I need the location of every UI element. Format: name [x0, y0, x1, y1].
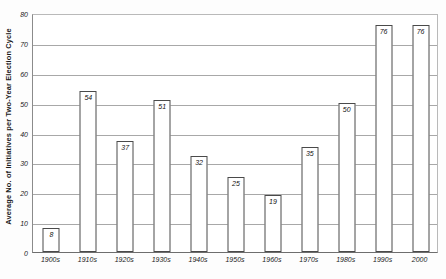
bar-slot: 54 [70, 15, 107, 252]
bar-slot: 19 [254, 15, 291, 252]
x-tick-label: 1970s [299, 256, 318, 263]
bar[interactable]: 76 [412, 25, 429, 252]
x-axis-tick-labels: 1900s1910s1920s1930s1940s1950s1960s1970s… [32, 256, 438, 270]
plot-area: 854375132251935507676 [32, 14, 438, 253]
y-tick-label: 50 [20, 100, 28, 107]
bar-slot: 50 [328, 15, 365, 252]
bar-slot: 37 [107, 15, 144, 252]
bar[interactable]: 76 [375, 25, 392, 252]
bars-layer: 854375132251935507676 [33, 15, 437, 252]
bar[interactable]: 51 [154, 100, 171, 252]
y-tick-label: 80 [20, 11, 28, 18]
bar-slot: 76 [402, 15, 439, 252]
bar-slot: 35 [291, 15, 328, 252]
x-tick-label: 1990s [373, 256, 392, 263]
bar-slot: 25 [218, 15, 255, 252]
bar[interactable]: 35 [301, 147, 318, 252]
bar[interactable]: 32 [191, 156, 208, 252]
x-tick-label: 1960s [262, 256, 281, 263]
bar-value-label: 76 [413, 28, 428, 36]
bar-slot: 51 [144, 15, 181, 252]
y-tick-label: 70 [20, 40, 28, 47]
x-tick-label: 1940s [189, 256, 208, 263]
bar-value-label: 54 [81, 94, 96, 102]
x-tick-label: 1950s [225, 256, 244, 263]
y-tick-label: 30 [20, 160, 28, 167]
y-tick-label: 40 [20, 130, 28, 137]
x-tick-label: 1920s [115, 256, 134, 263]
y-tick-label: 0 [24, 250, 28, 257]
bar-value-label: 8 [44, 231, 59, 239]
bar[interactable]: 19 [264, 195, 281, 252]
x-tick-label: 1900s [41, 256, 60, 263]
bar-value-label: 51 [155, 103, 170, 111]
x-tick-label: 1980s [336, 256, 355, 263]
x-tick-label: 2000 [412, 256, 428, 263]
bar-chart: Average No. of Initiatives per Two-Year … [0, 0, 446, 279]
bar-value-label: 35 [302, 150, 317, 158]
x-tick-label: 1910s [78, 256, 97, 263]
y-tick-label: 20 [20, 190, 28, 197]
bar[interactable]: 37 [117, 141, 134, 252]
bar-slot: 8 [33, 15, 70, 252]
bar-value-label: 37 [118, 144, 133, 152]
bar-value-label: 76 [376, 28, 391, 36]
bar[interactable]: 54 [80, 91, 97, 252]
bar-slot: 32 [181, 15, 218, 252]
bar-value-label: 50 [339, 106, 354, 114]
y-tick-label: 60 [20, 70, 28, 77]
y-axis-tick-labels: 01020304050607080 [10, 14, 30, 253]
x-tick-label: 1930s [152, 256, 171, 263]
bar-slot: 76 [365, 15, 402, 252]
bar[interactable]: 50 [338, 103, 355, 252]
bar-value-label: 19 [265, 198, 280, 206]
y-tick-label: 10 [20, 220, 28, 227]
bar[interactable]: 8 [43, 228, 60, 252]
bar-value-label: 25 [228, 180, 243, 188]
bar-value-label: 32 [192, 159, 207, 167]
bar[interactable]: 25 [227, 177, 244, 252]
